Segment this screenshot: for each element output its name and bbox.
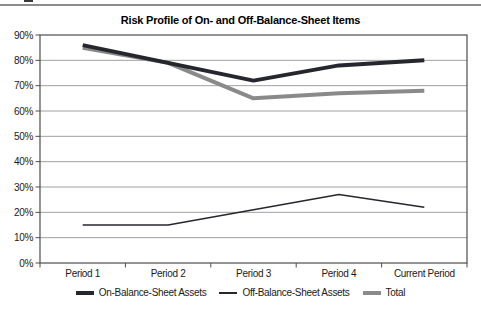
y-tick-label: 70%: [14, 80, 34, 91]
series-line-on-balance-sheet-assets: [83, 45, 425, 80]
legend-item: Total: [363, 287, 406, 298]
y-tick-label: 0%: [19, 258, 33, 269]
y-tick-label: 40%: [14, 156, 34, 167]
legend-label: Off-Balance-Sheet Assets: [242, 287, 349, 298]
series-line-off-balance-sheet-assets: [83, 195, 425, 225]
legend-label: On-Balance-Sheet Assets: [99, 287, 207, 298]
legend-line-swatch: [76, 291, 94, 295]
x-axis-label: Period 4: [321, 268, 357, 279]
y-tick-label: 10%: [14, 232, 34, 243]
x-axis-label: Period 2: [151, 268, 187, 279]
legend-item: On-Balance-Sheet Assets: [76, 287, 207, 298]
y-tick-label: 50%: [14, 131, 34, 142]
x-axis-label: Current Period: [394, 268, 455, 279]
y-tick-label: 80%: [14, 55, 34, 66]
x-axis-label: Period 1: [65, 268, 101, 279]
chart-figure: Risk Profile of On- and Off-Balance-Shee…: [0, 0, 481, 310]
y-tick-label: 20%: [14, 207, 34, 218]
legend-item: Off-Balance-Sheet Assets: [219, 287, 349, 298]
chart-legend: On-Balance-Sheet AssetsOff-Balance-Sheet…: [0, 287, 481, 298]
x-axis-label: Period 3: [236, 268, 272, 279]
legend-line-swatch: [219, 292, 237, 294]
y-tick-label: 30%: [14, 182, 34, 193]
y-tick-label: 60%: [14, 106, 34, 117]
y-tick-label: 90%: [14, 30, 34, 41]
legend-label: Total: [386, 287, 406, 298]
plot-frame: [40, 35, 467, 263]
line-chart-plot: 0%10%20%30%40%50%60%70%80%90%Period 1Per…: [0, 0, 481, 310]
legend-line-swatch: [363, 291, 381, 295]
